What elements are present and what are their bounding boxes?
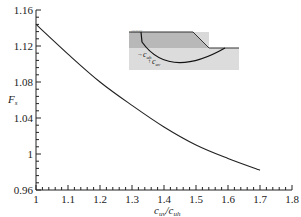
x-tick-label: 1.3 xyxy=(125,193,139,205)
chart: 11.11.21.31.41.51.61.71.80.9611.041.081.… xyxy=(0,0,301,217)
x-tick-label: 1.1 xyxy=(61,193,75,205)
excavation xyxy=(209,32,239,48)
inset-diagram: //////// → cuh ↑ cuv xyxy=(129,29,239,70)
x-tick-label: 1 xyxy=(33,193,39,205)
y-axis-label: Fs xyxy=(7,93,18,107)
y-tick-label: 1.04 xyxy=(14,112,34,124)
x-tick-label: 1.5 xyxy=(189,193,203,205)
hatch-marks: //////// xyxy=(131,29,143,34)
y-tick-label: 1.08 xyxy=(14,76,34,88)
arrow-up-icon: ↑ xyxy=(148,58,151,64)
y-tick-label: 1.12 xyxy=(14,40,33,52)
y-tick-label: 0.96 xyxy=(14,184,34,196)
x-tick-label: 1.2 xyxy=(93,193,107,205)
x-axis-label: cuv/cuh xyxy=(154,204,181,217)
x-tick-label: 1.6 xyxy=(221,193,235,205)
y-tick-label: 1 xyxy=(28,148,34,160)
x-tick-label: 1.7 xyxy=(253,193,267,205)
y-tick-label: 1.16 xyxy=(14,4,34,16)
x-tick-label: 1.8 xyxy=(285,193,299,205)
